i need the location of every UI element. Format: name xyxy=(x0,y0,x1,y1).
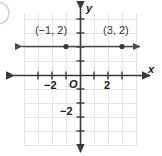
point-label-3-2: (3, 2) xyxy=(103,25,129,36)
data-point-3-2 xyxy=(119,44,124,49)
x-tick-label-minus2: −2 xyxy=(44,80,57,91)
corner-arc-decoration xyxy=(0,2,9,24)
graph-canvas xyxy=(0,0,162,156)
point-label-minus1-2: (−1, 2) xyxy=(35,25,67,36)
origin-label: O xyxy=(69,79,78,90)
x-axis-label: x xyxy=(148,64,154,75)
x-axis xyxy=(14,72,150,80)
coordinate-plane-figure: x y O −2 2 −2 (−1, 2) (3, 2) xyxy=(0,0,162,156)
y-axis-label: y xyxy=(86,3,92,14)
y-tick-label-minus2: −2 xyxy=(60,106,73,117)
data-point-minus1-2 xyxy=(63,44,68,49)
x-tick-label-2: 2 xyxy=(104,80,110,91)
